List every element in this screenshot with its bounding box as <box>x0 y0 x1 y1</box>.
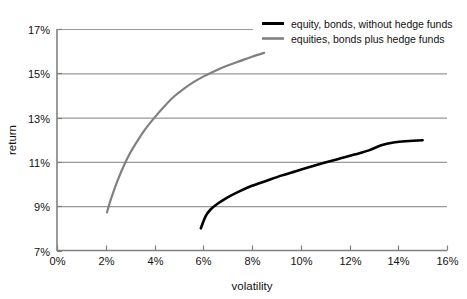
y-tick-label: 7% <box>34 246 50 258</box>
chart-legend: equity, bonds, without hedge fundsequiti… <box>253 14 465 48</box>
x-tick-label: 6% <box>196 255 212 267</box>
x-tick-label: 0% <box>50 255 66 267</box>
chart-container: 0%2%4%6%8%10%12%14%16% 7%9%11%13%15%17% … <box>0 0 467 299</box>
legend-label-2: equities, bonds plus hedge funds <box>291 33 445 45</box>
x-tick-label: 16% <box>436 255 458 267</box>
x-tick-label: 4% <box>148 255 164 267</box>
y-tick-label: 11% <box>29 157 50 169</box>
y-tick-label: 13% <box>28 113 50 125</box>
return-vs-volatility-chart: 0%2%4%6%8%10%12%14%16% 7%9%11%13%15%17% … <box>0 0 467 299</box>
x-tick-label: 12% <box>339 255 361 267</box>
x-tick-label: 10% <box>290 255 312 267</box>
x-axis-title: volatility <box>232 280 273 292</box>
x-tick-label: 8% <box>245 255 261 267</box>
x-tick-label: 2% <box>99 255 115 267</box>
x-tick-label-group: 0%2%4%6%8%10%12%14%16% <box>50 255 459 267</box>
y-tick-label: 17% <box>28 24 50 36</box>
x-tick-label: 14% <box>387 255 409 267</box>
y-axis-title: return <box>6 125 18 155</box>
y-tick-label: 15% <box>28 68 50 80</box>
legend-label-1: equity, bonds, without hedge funds <box>291 18 453 30</box>
y-tick-label: 9% <box>34 201 50 213</box>
